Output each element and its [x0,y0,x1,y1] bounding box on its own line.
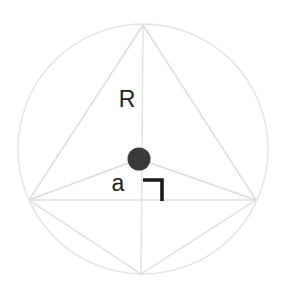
apothem-label: a [112,170,125,196]
centroid-point [128,148,151,171]
edge-top-to-left [29,25,143,200]
edge-top-to-right [143,25,256,200]
radius-label: R [119,86,136,112]
edge-bottom-to-left [29,200,141,274]
right-angle-marker [143,180,162,201]
geometry-diagram: R a [0,0,282,293]
edge-bottom-to-right [141,200,256,274]
geometry-figure-canvas: R a [0,0,282,293]
